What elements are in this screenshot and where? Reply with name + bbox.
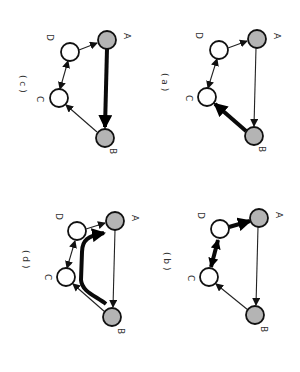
label-a: A [272, 33, 282, 40]
node-d [68, 222, 86, 240]
label-c: C [186, 275, 196, 281]
label-d: D [194, 32, 204, 39]
label-a: A [274, 212, 284, 219]
panel-label-d: ( d ) [21, 250, 31, 268]
label-b: B [108, 148, 118, 154]
node-b [246, 306, 264, 324]
edge-a-to-b-highlighted [105, 49, 107, 127]
node-a [98, 31, 116, 49]
node-c [50, 89, 68, 107]
node-b [245, 127, 263, 145]
edge-a-to-b [113, 230, 115, 307]
label-b: B [116, 328, 126, 334]
edge-b-to-c [66, 105, 97, 132]
node-d [211, 220, 229, 238]
panel-c: A B C D ( c ) [18, 31, 132, 154]
edge-d-to-a [228, 41, 247, 48]
label-b: B [259, 326, 269, 332]
label-d: D [54, 213, 64, 220]
edge-d-to-a-highlighted [229, 221, 250, 227]
edge-b-to-a-curved-highlighted [81, 233, 106, 304]
edge-c-d-bidirectional-highlighted [211, 240, 218, 267]
graph-figure: A B C D ( a ) A B C D ( c ) [0, 0, 300, 372]
edge-b-to-c-highlighted [215, 104, 246, 131]
label-c: C [43, 274, 53, 280]
edge-c-d-bidirectional [208, 59, 217, 88]
edge-b-to-c [216, 284, 248, 310]
node-d [210, 41, 228, 59]
panel-label-b: ( b ) [162, 252, 172, 270]
node-c [198, 88, 216, 106]
node-a [250, 209, 268, 227]
label-c: C [184, 95, 194, 101]
node-b [103, 308, 121, 326]
label-d: D [196, 212, 206, 219]
label-a: A [122, 33, 132, 40]
node-c [200, 268, 218, 286]
edge-c-d-bidirectional [67, 241, 75, 268]
node-a [248, 30, 266, 48]
label-b: B [257, 146, 267, 152]
node-a [106, 212, 124, 230]
label-c: C [35, 96, 45, 102]
panel-label-a: ( a ) [160, 73, 170, 91]
panel-b: A B C D ( b ) [162, 209, 284, 332]
node-b [96, 129, 114, 147]
label-d: D [45, 34, 55, 41]
node-c [57, 268, 75, 286]
panel-d: A B C D ( d ) [21, 212, 140, 334]
node-d [61, 43, 79, 61]
panel-label-c: ( c ) [18, 75, 28, 93]
label-a: A [130, 215, 140, 222]
edge-d-to-a [86, 223, 105, 229]
edge-d-to-a [79, 43, 97, 50]
edge-a-to-b [254, 48, 256, 126]
edge-a-to-b [256, 227, 258, 305]
edge-c-d-bidirectional [60, 61, 68, 89]
panel-a: A B C D ( a ) [160, 30, 282, 152]
